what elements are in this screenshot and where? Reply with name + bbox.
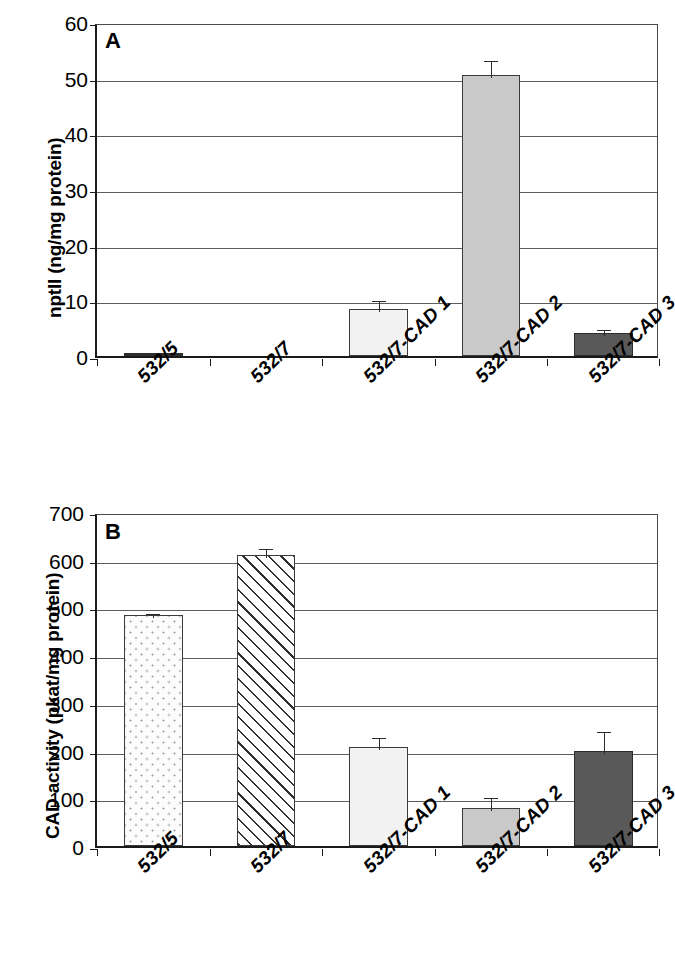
error-bar-cap: [146, 614, 160, 615]
y-axis-tick-label: 0: [72, 836, 84, 860]
gridline: [97, 81, 657, 82]
y-axis-tick-label: 300: [49, 693, 84, 717]
y-axis-tick: [90, 610, 97, 611]
y-axis-tick: [90, 25, 97, 26]
x-axis-tick: [547, 359, 548, 366]
error-bar: [604, 732, 605, 753]
y-axis-tick: [90, 136, 97, 137]
panel-a-y-tick-labels: 0102030405060: [10, 24, 88, 358]
panel-b: CAD activity (pkat/mg protein) 010020030…: [0, 489, 675, 978]
x-axis-tick: [435, 849, 436, 856]
panel-a: nptII (ng/mg protein) 0102030405060 A 53…: [0, 0, 675, 489]
error-bar: [379, 301, 380, 312]
y-axis-tick-label: 10: [65, 290, 88, 314]
x-axis-tick: [659, 359, 660, 366]
error-bar: [266, 549, 267, 558]
error-bar-cap: [597, 330, 611, 331]
panel-b-plot-area: [95, 514, 658, 848]
y-axis-tick: [90, 81, 97, 82]
error-bar: [491, 61, 492, 78]
error-bar: [491, 798, 492, 811]
y-axis-tick: [90, 706, 97, 707]
gridline: [97, 563, 657, 564]
error-bar-cap: [372, 738, 386, 739]
x-axis-tick: [659, 849, 660, 856]
x-axis-tick: [435, 359, 436, 366]
x-axis-tick: [322, 849, 323, 856]
y-axis-tick-label: 0: [76, 346, 88, 370]
y-axis-tick: [90, 248, 97, 249]
panel-a-plot-area: [95, 24, 658, 358]
error-bar-cap: [484, 798, 498, 799]
y-axis-tick: [90, 801, 97, 802]
error-bar: [379, 738, 380, 750]
gridline: [97, 136, 657, 137]
gridline: [97, 610, 657, 611]
y-axis-tick-label: 600: [49, 550, 84, 574]
y-axis-tick-label: 60: [65, 12, 88, 36]
gridline: [97, 192, 657, 193]
error-bar-cap: [484, 61, 498, 62]
x-axis-tick: [97, 359, 98, 366]
panel-b-letter: B: [105, 519, 121, 545]
y-axis-tick: [90, 658, 97, 659]
x-axis-tick: [322, 359, 323, 366]
bar: [237, 555, 296, 846]
error-bar-cap: [597, 732, 611, 733]
y-axis-tick: [90, 849, 97, 850]
y-axis-tick-label: 500: [49, 597, 84, 621]
y-axis-tick-label: 400: [49, 645, 84, 669]
y-axis-tick: [90, 359, 97, 360]
bar: [462, 75, 521, 356]
y-axis-tick: [90, 563, 97, 564]
y-axis-tick: [90, 754, 97, 755]
y-axis-tick-label: 700: [49, 502, 84, 526]
error-bar-cap: [372, 301, 386, 302]
y-axis-tick-label: 20: [65, 235, 88, 259]
x-axis-tick: [210, 359, 211, 366]
y-axis-tick: [90, 515, 97, 516]
error-bar-cap: [259, 549, 273, 550]
y-axis-tick: [90, 192, 97, 193]
gridline: [97, 303, 657, 304]
y-axis-tick-label: 40: [65, 123, 88, 147]
x-axis-tick: [210, 849, 211, 856]
x-axis-tick: [97, 849, 98, 856]
panel-b-y-tick-labels: 0100200300400500600700: [6, 514, 84, 848]
y-axis-tick: [90, 303, 97, 304]
y-axis-tick-label: 50: [65, 68, 88, 92]
panel-a-letter: A: [105, 28, 121, 54]
x-axis-tick: [547, 849, 548, 856]
bar: [124, 615, 183, 846]
y-axis-tick-label: 30: [65, 179, 88, 203]
y-axis-tick-label: 100: [49, 788, 84, 812]
y-axis-tick-label: 200: [49, 741, 84, 765]
gridline: [97, 248, 657, 249]
